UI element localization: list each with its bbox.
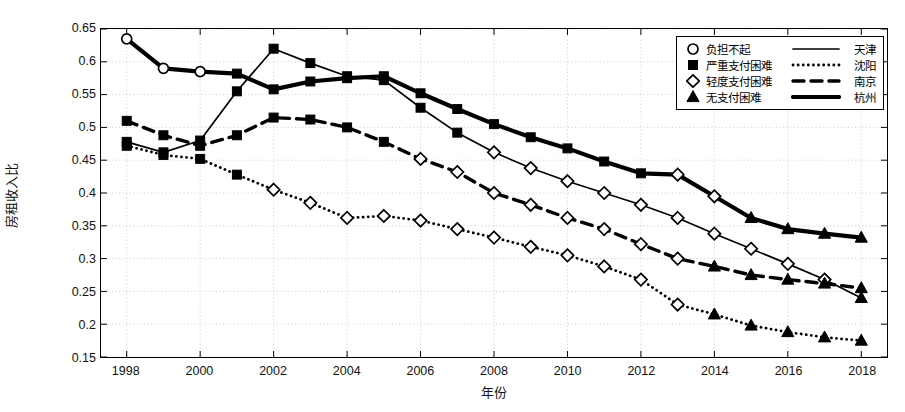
- legend-line-cell: [788, 91, 843, 103]
- y-axis-tick-label: 0.2: [79, 318, 96, 332]
- x-axis-tick-label: 2016: [775, 364, 803, 378]
- y-axis-title: 房租收入比: [1, 163, 20, 228]
- chart-legend: 负担不起天津严重支付困难沈阳轻度支付困难南京无支付困难杭州: [676, 36, 884, 110]
- y-axis-tick-label: 0.45: [72, 153, 96, 167]
- y-axis-tick-label: 0.55: [72, 87, 96, 101]
- legend-row: 无支付困难杭州: [682, 89, 878, 105]
- y-axis-tick-label: 0.15: [72, 351, 96, 365]
- legend-category-label: 无支付困难: [703, 89, 788, 105]
- legend-line-cell: [788, 43, 843, 55]
- solid-thick-line-icon: [791, 91, 841, 103]
- x-axis-tick-label: 2010: [554, 364, 582, 378]
- legend-category-label: 轻度支付困难: [703, 73, 788, 89]
- legend-line-cell: [788, 75, 843, 87]
- x-axis-tick-label: 2006: [406, 364, 434, 378]
- x-axis-tick-labels: 1998200020022004200620082010201220142016…: [100, 360, 888, 380]
- y-axis-tick-label: 0.35: [72, 219, 96, 233]
- legend-marker-cell: [682, 74, 703, 88]
- y-axis-tick-label: 0.3: [79, 252, 96, 266]
- y-axis-tick-label: 0.4: [79, 186, 96, 200]
- triangle-marker-icon: [686, 90, 700, 104]
- y-axis-tick-label: 0.6: [79, 54, 96, 68]
- legend-line-cell: [788, 59, 843, 71]
- circle-marker-icon: [686, 42, 700, 56]
- legend-category-label: 严重支付困难: [703, 57, 788, 73]
- x-axis-tick-label: 2008: [480, 364, 508, 378]
- x-axis-tick-label: 2018: [848, 364, 876, 378]
- y-axis-tick-label: 0.5: [79, 120, 96, 134]
- legend-row: 轻度支付困难南京: [682, 73, 878, 89]
- x-axis-tick-label: 2012: [627, 364, 655, 378]
- diamond-marker-icon: [686, 74, 700, 88]
- dashed-line-icon: [791, 75, 841, 87]
- solid-thin-line-icon: [791, 43, 841, 55]
- series-南京: [122, 113, 867, 293]
- legend-row: 严重支付困难沈阳: [682, 57, 878, 73]
- legend-marker-cell: [682, 42, 703, 56]
- x-axis-tick-label: 2004: [333, 364, 361, 378]
- y-axis-title-text: 房租收入比: [1, 163, 20, 228]
- legend-city-label: 天津: [843, 41, 878, 57]
- x-axis-tick-label: 2002: [259, 364, 287, 378]
- legend-category-label: 负担不起: [703, 41, 788, 57]
- dotted-line-icon: [791, 59, 841, 71]
- x-axis-tick-label: 2000: [186, 364, 214, 378]
- x-axis-tick-label: 1998: [112, 364, 140, 378]
- x-axis-title: 年份: [481, 382, 507, 401]
- legend-marker-cell: [682, 58, 703, 72]
- square-marker-icon: [686, 58, 700, 72]
- legend-city-label: 南京: [843, 73, 878, 89]
- series-沈阳: [122, 141, 867, 345]
- y-axis-tick-label: 0.25: [72, 285, 96, 299]
- chart-figure: 房租收入比 0.150.20.250.30.350.40.450.50.550.…: [0, 0, 905, 412]
- y-axis-tick-label: 0.65: [72, 21, 96, 35]
- legend-row: 负担不起天津: [682, 41, 878, 57]
- legend-city-label: 沈阳: [843, 57, 878, 73]
- x-axis-tick-label: 2014: [701, 364, 729, 378]
- y-axis-tick-labels: 0.150.20.250.30.350.40.450.50.550.60.65: [40, 28, 96, 358]
- legend-marker-cell: [682, 90, 703, 104]
- legend-city-label: 杭州: [843, 89, 878, 105]
